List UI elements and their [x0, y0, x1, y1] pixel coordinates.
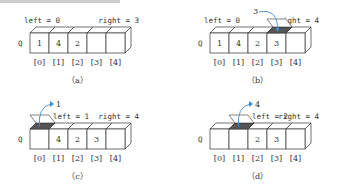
cell-value: 2: [75, 39, 80, 48]
dequeued-value: 1: [56, 100, 61, 109]
cell-index: [2]: [72, 154, 83, 163]
cell-index: [4]: [110, 154, 121, 163]
queue-cell: [210, 129, 229, 149]
panel-a: Q1[0]4[1]2[2][3][4]left = 0right = 3（a）: [18, 16, 139, 85]
cell-value: 1: [217, 39, 222, 48]
panel-d: Q[0][1]2[2]3[3][4]left = 2right = 4（d）4: [198, 100, 319, 181]
enqueued-value: 3: [253, 7, 258, 16]
arrow-head-icon: [50, 101, 54, 107]
cell-index: [4]: [110, 58, 121, 67]
cell-index: [1]: [53, 154, 64, 163]
cell-value: 4: [56, 39, 61, 48]
left-pointer-label: left = 1: [53, 112, 89, 121]
cell-index: [0]: [34, 154, 45, 163]
cell-index: [1]: [53, 58, 64, 67]
queue-cell: [87, 33, 106, 53]
queue-cell: [30, 129, 49, 149]
queue-cell: [106, 129, 125, 149]
cell-value: 1: [37, 39, 42, 48]
cell-index: [3]: [91, 154, 102, 163]
queue-cell: [286, 33, 305, 53]
panel-b: Q1[0]4[1]2[2]3[3][4]left = 0right = 4（b）…: [198, 7, 319, 85]
queue-diagram: Q1[0]4[1]2[2][3][4]left = 0right = 3（a）Q…: [0, 0, 360, 192]
cell-index: [2]: [72, 58, 83, 67]
queue-label: Q: [18, 135, 23, 144]
cell-index: [4]: [290, 154, 301, 163]
cell-index: [4]: [290, 58, 301, 67]
panel-caption: （d）: [247, 172, 268, 181]
cell-index: [3]: [271, 58, 282, 67]
right-pointer-label: right = 3: [98, 16, 139, 25]
left-pointer-label: left = 0: [204, 16, 241, 25]
queue-label: Q: [198, 135, 203, 144]
cell-value: 3: [274, 39, 279, 48]
lid-flap: [30, 115, 55, 123]
cell-value: 4: [236, 39, 241, 48]
cell-value: 2: [75, 135, 80, 144]
arrow-head-icon: [249, 101, 253, 107]
cell-index: [1]: [233, 154, 244, 163]
cell-value: 3: [274, 135, 279, 144]
cell-index: [0]: [34, 58, 45, 67]
cell-index: [3]: [91, 58, 102, 67]
panel-caption: （b）: [247, 76, 268, 85]
cropped-text-strip: [0, 0, 120, 3]
panel-caption: （c）: [67, 172, 87, 181]
panel-c: Q[0]4[1]2[2]3[3][4]left = 1right = 4（c）1: [18, 100, 139, 181]
queue-label: Q: [198, 39, 203, 48]
queue-cell: [106, 33, 125, 53]
cell-index: [3]: [271, 154, 282, 163]
cell-value: 2: [255, 39, 260, 48]
panel-caption: （a）: [67, 76, 88, 85]
queue-label: Q: [18, 39, 23, 48]
queue-cell: [286, 129, 305, 149]
dequeued-value: 4: [255, 100, 260, 109]
cell-index: [0]: [214, 58, 225, 67]
right-pointer-label: right = 4: [98, 112, 139, 121]
cell-index: [1]: [233, 58, 244, 67]
cell-value: 4: [56, 135, 61, 144]
right-pointer-label: right = 4: [278, 112, 319, 121]
cell-index: [2]: [252, 58, 263, 67]
cell-index: [2]: [252, 154, 263, 163]
queue-cell: [229, 129, 248, 149]
cell-value: 3: [94, 135, 99, 144]
cell-index: [0]: [214, 154, 225, 163]
left-pointer-label: left = 0: [24, 16, 61, 25]
cell-value: 2: [255, 135, 260, 144]
lid-flap: [229, 115, 254, 123]
